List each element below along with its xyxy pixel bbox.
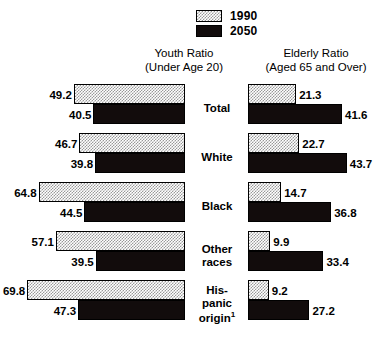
category-label-line: origin1 <box>199 309 235 324</box>
legend: 1990 2050 <box>196 9 258 39</box>
elderly-ratio-bars: 22.743.7 <box>248 133 380 182</box>
bar-value-label: 46.7 <box>55 134 80 154</box>
category-label-line: Total <box>204 102 231 115</box>
elderly-ratio-header: Elderly Ratio (Aged 65 and Over) <box>248 47 380 74</box>
bar-value-label: 43.7 <box>346 154 372 174</box>
bar-value-label: 40.5 <box>69 105 94 125</box>
chart-row: 57.139.5Otherraces9.933.4 <box>0 231 380 280</box>
bar-value-label: 21.3 <box>295 85 321 105</box>
youth-ratio-header-line2: (Under Age 20) <box>122 61 246 75</box>
bar-value-label: 47.3 <box>54 301 79 321</box>
chart-row: 69.847.3His-panicorigin19.227.2 <box>0 280 380 329</box>
legend-item-1990: 1990 <box>196 9 258 23</box>
bar-elderly-1990: 22.7 <box>248 133 299 153</box>
bar-elderly-1990: 21.3 <box>248 84 296 104</box>
bar-value-label: 9.9 <box>269 232 289 252</box>
elderly-ratio-bars: 9.227.2 <box>248 280 380 329</box>
bar-youth-1990: 57.1 <box>56 231 185 251</box>
bar-youth-2050: 39.5 <box>96 251 185 271</box>
bar-youth-2050: 47.3 <box>78 300 185 320</box>
bar-value-label: 9.2 <box>268 281 288 301</box>
elderly-ratio-bars: 21.341.6 <box>248 84 380 133</box>
elderly-ratio-header-line2: (Aged 65 and Over) <box>248 61 380 75</box>
category-label: Total <box>188 84 246 133</box>
category-label: Otherraces <box>188 231 246 280</box>
bar-elderly-1990: 9.9 <box>248 231 270 251</box>
legend-swatch-1990-icon <box>196 10 222 22</box>
youth-ratio-header: Youth Ratio (Under Age 20) <box>122 47 246 74</box>
elderly-ratio-header-line1: Elderly Ratio <box>248 47 380 61</box>
bar-value-label: 44.5 <box>60 203 85 223</box>
bar-youth-1990: 69.8 <box>27 280 185 300</box>
bar-youth-2050: 40.5 <box>93 104 185 124</box>
bar-youth-1990: 64.8 <box>39 182 185 202</box>
bar-value-label: 27.2 <box>308 301 334 321</box>
youth-ratio-bars: 64.844.5 <box>0 182 185 231</box>
bar-value-label: 33.4 <box>322 252 348 272</box>
youth-ratio-bars: 57.139.5 <box>0 231 185 280</box>
chart-row: 46.739.8White22.743.7 <box>0 133 380 182</box>
category-label-line: Black <box>202 200 233 213</box>
bar-value-label: 22.7 <box>298 134 324 154</box>
bar-value-label: 64.8 <box>14 183 39 203</box>
category-label-line: races <box>202 256 232 269</box>
youth-ratio-bars: 46.739.8 <box>0 133 185 182</box>
bar-value-label: 14.7 <box>280 183 306 203</box>
bar-elderly-2050: 27.2 <box>248 300 309 320</box>
category-label-line: White <box>201 151 232 164</box>
category-label-line: panic <box>202 297 232 310</box>
category-label-line: His- <box>206 284 228 297</box>
bar-elderly-1990: 9.2 <box>248 280 269 300</box>
bar-value-label: 39.8 <box>71 154 96 174</box>
legend-swatch-2050-icon <box>196 25 222 37</box>
category-label: White <box>188 133 246 182</box>
category-label: His-panicorigin1 <box>188 280 246 329</box>
youth-ratio-bars: 49.240.5 <box>0 84 185 133</box>
youth-ratio-header-line1: Youth Ratio <box>122 47 246 61</box>
bar-value-label: 36.8 <box>330 203 356 223</box>
bar-youth-1990: 46.7 <box>79 133 185 153</box>
category-label: Black <box>188 182 246 231</box>
youth-ratio-bars: 69.847.3 <box>0 280 185 329</box>
bar-value-label: 57.1 <box>32 232 57 252</box>
chart-row: 64.844.5Black14.736.8 <box>0 182 380 231</box>
elderly-ratio-bars: 9.933.4 <box>248 231 380 280</box>
bar-youth-1990: 49.2 <box>74 84 185 104</box>
bar-elderly-2050: 41.6 <box>248 104 342 124</box>
bar-elderly-2050: 36.8 <box>248 202 331 222</box>
chart-plot-area: 49.240.5Total21.341.646.739.8White22.743… <box>0 84 380 329</box>
bar-value-label: 69.8 <box>3 281 28 301</box>
bar-elderly-1990: 14.7 <box>248 182 281 202</box>
legend-item-2050: 2050 <box>196 24 258 38</box>
chart-row: 49.240.5Total21.341.6 <box>0 84 380 133</box>
bar-youth-2050: 44.5 <box>84 202 185 222</box>
elderly-ratio-bars: 14.736.8 <box>248 182 380 231</box>
category-label-line: Other <box>202 243 233 256</box>
bar-youth-2050: 39.8 <box>95 153 185 173</box>
bar-value-label: 41.6 <box>341 105 367 125</box>
bar-value-label: 39.5 <box>71 252 96 272</box>
bar-value-label: 49.2 <box>49 85 74 105</box>
legend-label-1990: 1990 <box>230 10 258 22</box>
bar-elderly-2050: 33.4 <box>248 251 323 271</box>
footnote-marker: 1 <box>231 310 235 319</box>
legend-label-2050: 2050 <box>230 25 258 37</box>
bar-elderly-2050: 43.7 <box>248 153 347 173</box>
